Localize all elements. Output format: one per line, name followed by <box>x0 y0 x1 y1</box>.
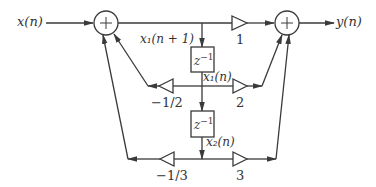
gain-3-triangle <box>233 152 247 166</box>
gain-neg-half-label: −1/2 <box>151 96 183 109</box>
delay-1-label: z−1 <box>194 53 214 67</box>
gain-neg-half-triangle <box>159 79 173 93</box>
state1-next-label: x₁(n + 1) <box>140 33 194 45</box>
gain-neg-third-label: −1/3 <box>156 169 188 182</box>
gain-2-triangle <box>233 79 247 93</box>
input-label: x(n) <box>17 15 43 28</box>
gain-1-label: 1 <box>236 33 244 46</box>
output-label: y(n) <box>336 15 362 28</box>
feedback-2-diagonal <box>103 35 128 159</box>
delay-2-label: z−1 <box>194 117 214 131</box>
block-diagram <box>0 0 376 187</box>
gain-1-triangle <box>232 16 247 30</box>
gain-3-label: 3 <box>236 169 244 182</box>
feedforward-1-diagonal <box>262 35 282 86</box>
state2-label: x₂(n) <box>206 136 235 148</box>
state1-label: x₁(n) <box>203 71 232 83</box>
feedforward-2-diagonal <box>276 35 289 159</box>
gain-neg-third-triangle <box>160 152 174 166</box>
gain-2-label: 2 <box>236 96 244 109</box>
